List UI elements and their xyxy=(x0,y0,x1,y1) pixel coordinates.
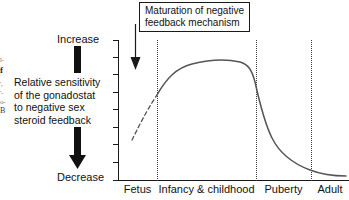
page-bleed-text: '- xyxy=(0,89,14,97)
y-axis-description: Relative sensitivity of the gonadostat t… xyxy=(14,76,118,126)
y-axis-description-line: Relative sensitivity xyxy=(14,76,118,89)
plot-area xyxy=(118,40,349,180)
y-axis-description-line: to negative sex xyxy=(14,101,118,114)
y-axis-description-line: steroid feedback xyxy=(14,114,118,127)
y-axis-top-label: Increase xyxy=(57,33,99,45)
y-axis-bottom-label: Decrease xyxy=(57,171,104,183)
decrease-arrow-icon xyxy=(69,127,86,169)
callout-line-2: feedback mechanism xyxy=(145,17,244,29)
callout-line-1: Maturation of negative xyxy=(145,5,244,17)
page-bleed-text: o- xyxy=(0,98,14,106)
x-axis-label-adult: Adult xyxy=(311,183,349,195)
page-bleed-text: l- xyxy=(0,56,14,64)
x-axis-label-fetus: Fetus xyxy=(117,183,158,195)
callout-box: Maturation of negative feedback mechanis… xyxy=(139,2,250,32)
figure-relative-gonadostat-sensitivity: l- f ', '- o- B Increase Decrease Relati… xyxy=(0,0,349,200)
page-bleed-text: f xyxy=(0,66,14,74)
x-axis-labels: Fetus Infancy & childhood Puberty Adult xyxy=(118,183,349,199)
x-axis-label-infancy: Infancy & childhood xyxy=(157,183,256,195)
increase-direction-bar-icon xyxy=(74,46,81,73)
callout-pointer-arrow-icon xyxy=(129,24,142,70)
page-bleed-text: B xyxy=(0,107,14,115)
sensitivity-curve xyxy=(118,40,349,181)
page-bleed-text: ', xyxy=(0,80,14,88)
x-axis-label-puberty: Puberty xyxy=(256,183,311,195)
y-axis-description-line: of the gonadostat xyxy=(14,89,118,102)
